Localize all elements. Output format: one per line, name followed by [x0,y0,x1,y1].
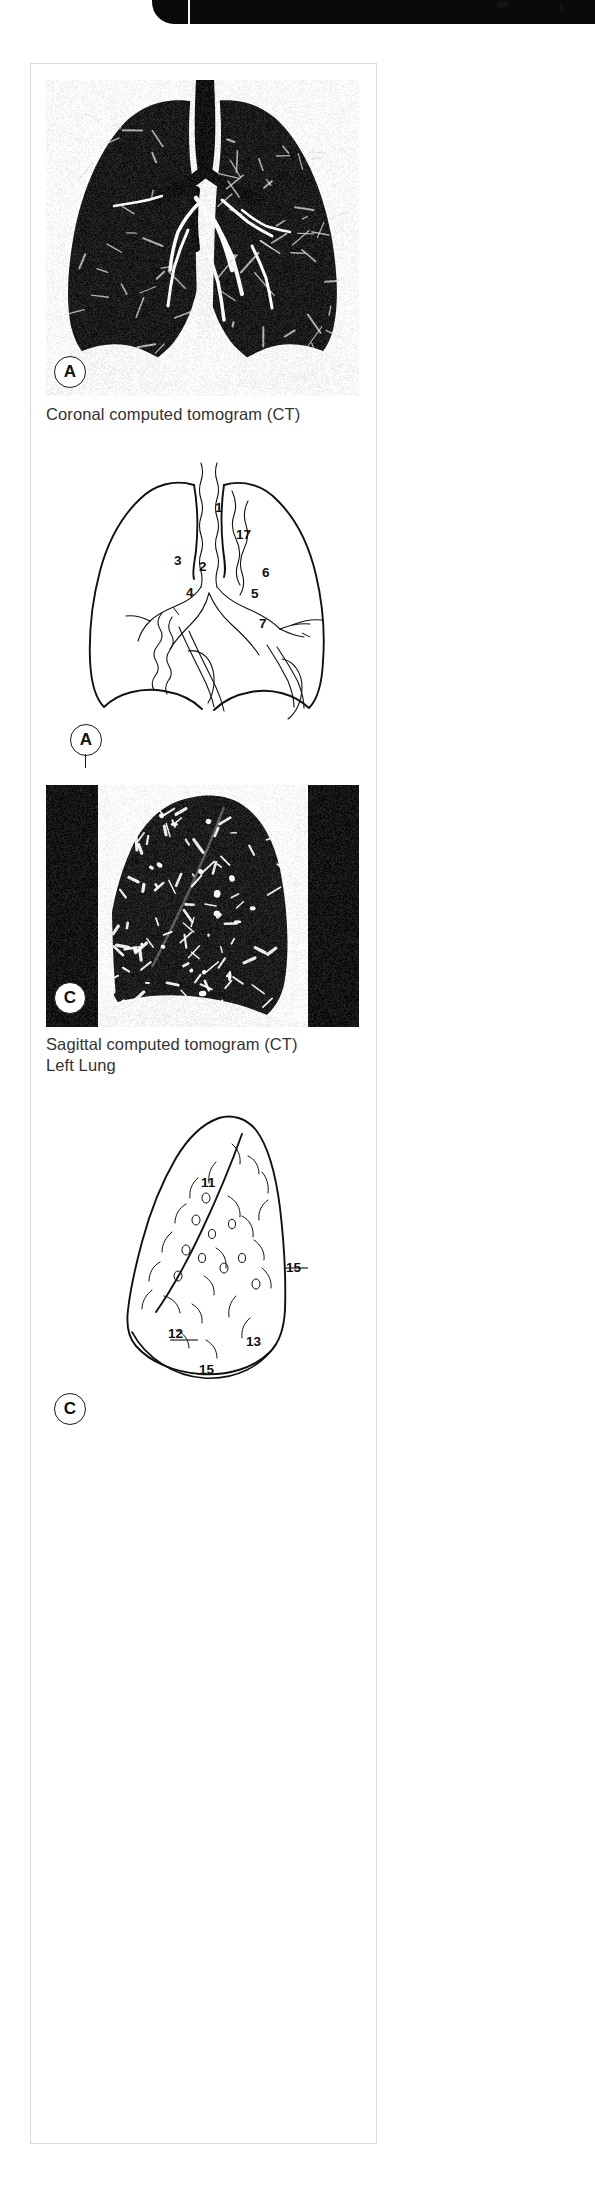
trachea-left-wall [216,463,219,587]
left-descending-artery [267,645,294,707]
vessel-6 [175,1204,186,1223]
panel-letter-c-ct: C [54,982,86,1014]
vessel-2 [248,1156,259,1174]
vessel-cross-5 [199,1254,206,1263]
panel-letter-a-diagram-text: A [80,730,92,750]
panel-letter-a-ct: A [54,356,86,388]
vessel-7 [162,1232,172,1252]
right-descending-vessel-2 [189,631,224,711]
figure-frame-lower [30,1408,377,2144]
panel-c-sagittal-ct-image [46,785,359,1027]
sagittal-label-11: 11 [201,1176,215,1190]
header-mark-right-icon [560,2,563,11]
vessel-5 [190,1178,198,1198]
caption-sagittal-line1: Sagittal computed tomogram (CT) [46,1034,376,1055]
left-lung-outline [214,483,324,710]
header-corner-tab [152,0,190,24]
caption-coronal: Coronal computed tomogram (CT) [46,404,376,425]
vessel-13 [262,1268,271,1288]
header-black-bar [185,0,595,24]
left-upper-lobe-branch-2 [280,629,304,637]
leader-3 [173,607,179,615]
left-lung-medial-upper [222,485,225,577]
left-lower-lobe-loop [282,659,302,719]
left-upper-lobe-bronchus [280,624,310,629]
vessel-22 [259,1200,268,1220]
sagittal-label-15-upper: 15 [286,1261,301,1275]
right-upper-lobe-bronchus [126,616,150,621]
bronchus-intermedius [152,613,162,690]
figure-page: A Coronal computed tomogram (CT) [0,0,595,2202]
vessel-cross-2 [192,1215,200,1225]
vessel-8 [149,1262,160,1281]
sagittal-label-12: 12 [168,1327,183,1341]
vessel-15 [204,1276,214,1295]
sagittal-label-15-lower: 15 [199,1363,214,1377]
page-header-band [0,0,595,26]
panel-letter-c-diagram: C [54,1393,86,1425]
sagittal-diagram-svg [46,1100,359,1400]
vessel-17 [229,1296,236,1317]
left-lung-sagittal-outline [127,1117,285,1375]
descending-aorta-margin [240,501,248,595]
coronal-label-4: 4 [186,586,194,600]
bronchus-intermedius-wall2 [166,617,174,694]
coronal-label-2: 2 [199,560,207,574]
coronal-label-7: 7 [259,617,267,631]
panel-letter-c-diagram-text: C [64,1399,76,1419]
vessel-1 [232,1144,240,1164]
panel-a-coronal-ct-image [46,80,359,396]
coronal-label-1: 1 [215,501,223,515]
vessel-cross-3 [209,1230,216,1239]
coronal-label-17: 17 [236,528,251,542]
vessel-11 [242,1216,253,1237]
vessel-20 [206,1340,217,1358]
coronal-label-5: 5 [251,587,259,601]
coronal-label-3: 3 [174,554,182,568]
left-main-bronchus-sup [217,587,280,629]
vessel-cross-10 [252,1279,260,1289]
sagittal-label-13: 13 [246,1335,261,1349]
vessel-cross-1 [202,1193,210,1203]
vessel-16 [192,1304,202,1323]
vessel-10 [228,1196,240,1217]
left-descending-artery-2 [277,647,304,708]
panel-letter-a-stem [85,754,87,768]
vessel-3 [262,1172,268,1193]
vessel-21 [164,1296,180,1313]
vessel-cross-9 [229,1220,236,1229]
caption-sagittal-line2: Left Lung [46,1055,376,1076]
sagittal-ct-canvas [46,785,359,1027]
header-mark-left-icon [496,1,509,8]
panel-c-sagittal-diagram [46,1100,359,1400]
vessel-cross-7 [239,1254,246,1263]
vessel-12 [254,1240,264,1260]
header-divider [188,0,190,24]
panel-letter-c-ct-text: C [64,988,76,1008]
vessel-9 [142,1290,152,1309]
vessel-cross-6 [220,1263,228,1273]
right-main-bronchus-inf [170,593,209,649]
right-descending-vessel [179,627,214,707]
panel-letter-a-ct-text: A [64,362,76,382]
coronal-ct-canvas [46,80,359,396]
coronal-label-6: 6 [262,566,270,580]
vessel-cross-4 [182,1245,190,1255]
right-lung-medial-upper [193,485,197,579]
right-upper-lobe-branch-2 [138,621,150,641]
panel-letter-a-diagram: A [70,724,102,756]
